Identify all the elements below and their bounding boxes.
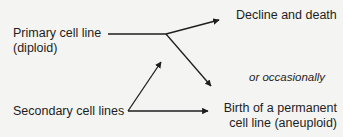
secondary-cell-lines-label: Secondary cell lines: [13, 104, 124, 119]
decline-and-death-label: Decline and death: [236, 8, 337, 23]
primary-cell-line-label: Primary cell line (diploid): [13, 26, 101, 56]
secondary-text: Secondary cell lines: [13, 104, 124, 118]
primary-line1: Primary cell line: [13, 26, 101, 41]
arrow-to-birth-from-primary: [166, 34, 211, 86]
or-occasionally-annotation: or occasionally: [249, 70, 325, 85]
annotation-text: or occasionally: [249, 71, 325, 83]
birth-line1: Birth of a permanent: [220, 101, 337, 116]
birth-line2: cell line (aneuploid): [220, 116, 337, 131]
primary-line2: (diploid): [13, 41, 101, 56]
arrow-secondary-up: [128, 62, 161, 111]
decline-text: Decline and death: [236, 8, 337, 22]
cell-line-fate-diagram: Primary cell line (diploid) Secondary ce…: [0, 0, 343, 137]
arrow-to-decline: [166, 20, 219, 34]
birth-permanent-cell-line-label: Birth of a permanent cell line (aneuploi…: [220, 101, 337, 131]
